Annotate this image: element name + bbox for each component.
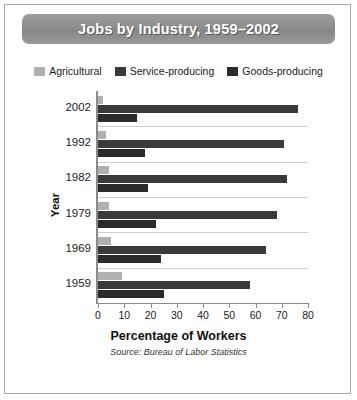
x-axis-tick — [229, 303, 230, 308]
x-axis-tick — [282, 303, 283, 308]
x-axis-line — [96, 303, 308, 304]
bar-goods-producing — [98, 220, 156, 228]
chart-plot-region: Year 01020304050607080200219921982197919… — [5, 87, 352, 387]
legend-item-service-producing: Service-producing — [115, 65, 215, 77]
chart-title-banner: Jobs by Industry, 1959–2002 — [22, 14, 335, 44]
y-axis-category-label: 1979 — [49, 207, 91, 219]
x-axis-tick — [256, 303, 257, 308]
x-axis-tick-label: 80 — [293, 309, 323, 321]
bar-group: 1992 — [98, 131, 308, 157]
bar-goods-producing — [98, 255, 161, 263]
y-axis-category-label: 1982 — [49, 171, 91, 183]
page-title: Jobs by Industry, 1959–2002 — [78, 21, 279, 37]
bar-group: 1959 — [98, 272, 308, 298]
bar-service-producing — [98, 281, 250, 289]
x-axis-title: Percentage of Workers — [5, 329, 352, 343]
bar-service-producing — [98, 140, 284, 148]
bar-service-producing — [98, 211, 277, 219]
bar-goods-producing — [98, 290, 164, 298]
bar-group: 1969 — [98, 237, 308, 263]
bar-goods-producing — [98, 149, 145, 157]
y-axis-category-label: 1969 — [49, 242, 91, 254]
bar-service-producing — [98, 246, 266, 254]
legend-item-goods-producing: Goods-producing — [227, 65, 323, 77]
legend-label: Service-producing — [130, 65, 215, 77]
bar-agricultural — [98, 131, 106, 139]
y-axis-category-label: 2002 — [49, 101, 91, 113]
x-axis-tick — [177, 303, 178, 308]
bar-group: 2002 — [98, 96, 308, 122]
bar-chart-plot: 0102030405060708020021992198219791969195… — [96, 91, 308, 303]
gridline — [98, 232, 308, 233]
bar-agricultural — [98, 272, 122, 280]
gridline — [98, 126, 308, 127]
x-axis-tick — [308, 303, 309, 308]
legend-swatch-icon — [227, 67, 238, 76]
gridline — [98, 268, 308, 269]
legend-item-agricultural: Agricultural — [34, 65, 102, 77]
bar-service-producing — [98, 175, 287, 183]
x-axis-tick — [203, 303, 204, 308]
y-axis-category-label: 1959 — [49, 277, 91, 289]
bar-group: 1979 — [98, 202, 308, 228]
bar-service-producing — [98, 105, 298, 113]
legend-swatch-icon — [34, 67, 45, 76]
bar-agricultural — [98, 166, 109, 174]
chart-frame: Jobs by Industry, 1959–2002 Agricultural… — [4, 4, 351, 394]
x-axis-tick — [124, 303, 125, 308]
bar-group: 1982 — [98, 166, 308, 192]
source-note: Source: Bureau of Labor Statistics — [5, 347, 352, 357]
y-axis-category-label: 1992 — [49, 136, 91, 148]
y-axis-title: Year — [49, 175, 61, 235]
gridline — [98, 162, 308, 163]
bar-goods-producing — [98, 184, 148, 192]
bar-agricultural — [98, 96, 103, 104]
chart-legend: Agricultural Service-producing Goods-pro… — [22, 62, 335, 80]
x-axis-tick — [151, 303, 152, 308]
bar-agricultural — [98, 202, 109, 210]
legend-label: Agricultural — [49, 65, 102, 77]
x-axis-tick — [98, 303, 99, 308]
bar-agricultural — [98, 237, 111, 245]
legend-swatch-icon — [115, 67, 126, 76]
gridline — [98, 197, 308, 198]
bar-goods-producing — [98, 114, 137, 122]
legend-label: Goods-producing — [242, 65, 323, 77]
